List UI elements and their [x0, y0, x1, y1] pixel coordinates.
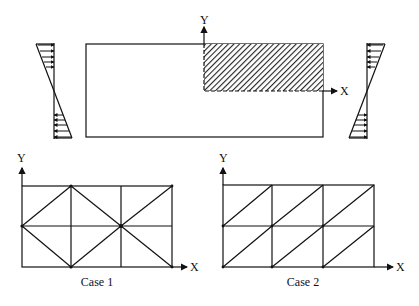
case2-caption: Case 2 [287, 275, 319, 289]
plate-diagram: Y X [86, 13, 349, 137]
figure-canvas: Y X [0, 0, 419, 306]
left-load-diagram [36, 43, 72, 139]
shaded-region [204, 44, 323, 91]
case1-y-axis-label: Y [17, 151, 26, 165]
case2-mesh [223, 185, 374, 267]
plate-x-axis-label: X [340, 84, 349, 98]
plate-y-axis-label: Y [200, 13, 209, 27]
case2-y-axis-label: Y [219, 151, 228, 165]
case1-x-axis-label: X [190, 260, 199, 274]
case1-caption: Case 1 [81, 275, 113, 289]
case2-nodes [222, 225, 325, 269]
case2-x-axis-label: X [396, 260, 405, 274]
right-load-diagram [349, 43, 385, 139]
case1-mesh [22, 186, 172, 267]
